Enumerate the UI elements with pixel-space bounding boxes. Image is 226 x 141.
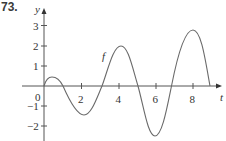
x-tick-label-4: 4 <box>116 93 122 105</box>
y-axis-arrow-icon <box>42 8 47 14</box>
y-tick-label-2: 2 <box>33 40 39 52</box>
y-tick-label-minus-2: −2 <box>27 120 39 132</box>
x-axis-label: t <box>220 91 224 103</box>
x-tick-label-8: 8 <box>190 93 196 105</box>
y-tick-label-1: 1 <box>33 60 39 72</box>
curve-f <box>44 30 210 136</box>
curve-label-f: f <box>102 50 107 62</box>
y-axis-label: y <box>34 3 40 15</box>
function-graph: 2 4 6 8 0 3 2 1 −1 −2 y t f <box>0 0 226 141</box>
x-tick-label-2: 2 <box>78 93 84 105</box>
y-tick-label-3: 3 <box>33 20 39 32</box>
x-axis-arrow-icon <box>216 84 222 89</box>
x-tick-label-6: 6 <box>153 93 159 105</box>
y-tick-label-minus-1: −1 <box>27 100 39 112</box>
